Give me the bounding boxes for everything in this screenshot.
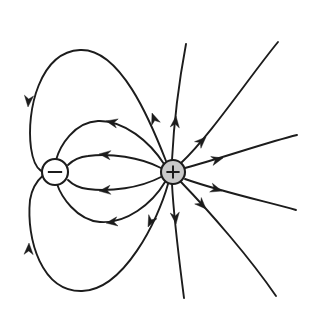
charge-minus	[42, 159, 68, 185]
figure-background	[0, 0, 315, 320]
charge-plus	[161, 160, 185, 184]
field-line-figure	[0, 0, 315, 320]
field-line-canvas	[0, 0, 315, 320]
